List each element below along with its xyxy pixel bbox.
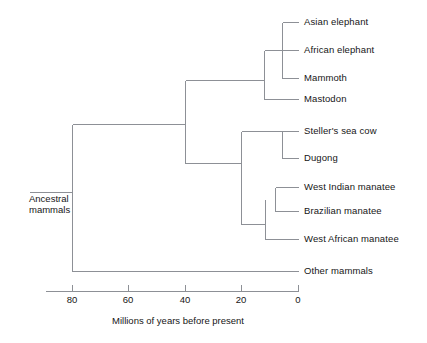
- axis-tick-label-80: 80: [57, 294, 87, 305]
- cladogram-figure: Asian elephant African elephant Mammoth …: [0, 0, 427, 343]
- axis-tick-label-20: 20: [226, 294, 256, 305]
- tip-label-west-indian-manatee: West Indian manatee: [304, 182, 396, 192]
- tip-label-stellers-sea-cow: Steller's sea cow: [304, 126, 377, 136]
- root-label-line2: mammals: [29, 204, 70, 215]
- axis-tick-label-60: 60: [113, 294, 143, 305]
- tip-label-mammoth: Mammoth: [304, 73, 347, 83]
- tip-label-african-elephant: African elephant: [304, 45, 374, 55]
- axis-title: Millions of years before present: [112, 315, 244, 326]
- tip-label-asian-elephant: Asian elephant: [304, 17, 368, 27]
- tip-label-brazilian-manatee: Brazilian manatee: [304, 206, 382, 216]
- tip-label-other-mammals: Other mammals: [304, 266, 373, 276]
- tip-label-west-african-manatee: West African manatee: [304, 234, 399, 244]
- axis-tick-label-40: 40: [170, 294, 200, 305]
- tip-label-dugong: Dugong: [304, 153, 338, 163]
- tip-label-mastodon: Mastodon: [304, 94, 347, 104]
- axis-tick-label-0: 0: [283, 294, 313, 305]
- root-label: Ancestral mammals: [29, 193, 70, 215]
- root-label-line1: Ancestral: [29, 193, 70, 204]
